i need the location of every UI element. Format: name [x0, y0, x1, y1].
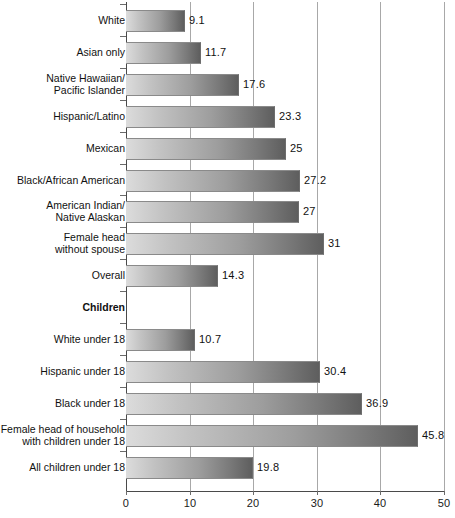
bar: [126, 201, 299, 223]
bar-value-label: 30.4: [324, 365, 346, 377]
y-tick-mark-0: [120, 4, 126, 5]
category-label: Black/African American: [0, 174, 125, 186]
category-label: Overall: [0, 269, 125, 281]
y-tick-mark-7: [120, 227, 126, 228]
x-axis-line: [126, 491, 444, 492]
y-tick-mark-14: [120, 451, 126, 452]
y-tick-mark-2: [120, 68, 126, 69]
bar-value-label: 11.7: [205, 46, 226, 58]
y-tick-mark-10: [120, 323, 126, 324]
category-label: All children under 18: [0, 461, 125, 473]
x-tick-mark-20: [253, 491, 254, 495]
gridline-50: [444, 2, 445, 491]
category-label: White under 18: [0, 333, 125, 345]
bar: [126, 265, 218, 287]
bar: [126, 233, 324, 255]
y-tick-mark-13: [120, 419, 126, 420]
y-tick-mark-11: [120, 355, 126, 356]
x-tick-label-40: 40: [365, 497, 395, 509]
bar-value-label: 17.6: [243, 78, 265, 90]
x-tick-mark-0: [126, 491, 127, 495]
category-label: Mexican: [0, 142, 125, 154]
bar-value-label: 14.3: [222, 269, 244, 281]
bar: [126, 170, 300, 192]
bar-value-label: 19.8: [257, 461, 279, 473]
x-tick-label-0: 0: [111, 497, 141, 509]
bar: [126, 74, 239, 96]
bar: [126, 425, 418, 447]
y-tick-mark-6: [120, 195, 126, 196]
x-tick-label-50: 50: [429, 497, 455, 509]
gridline-40: [380, 2, 381, 491]
x-tick-label-20: 20: [238, 497, 268, 509]
x-tick-label-30: 30: [302, 497, 332, 509]
bar: [126, 106, 275, 128]
bar-value-label: 23.3: [279, 110, 301, 122]
x-tick-label-10: 10: [175, 497, 205, 509]
bar-value-label: 10.7: [199, 333, 221, 345]
section-header-label: Children: [0, 301, 125, 313]
category-label: American Indian/ Native Alaskan: [0, 199, 125, 223]
category-label: Native Hawaiian/ Pacific Islander: [0, 72, 125, 96]
y-tick-mark-3: [120, 100, 126, 101]
category-label: Black under 18: [0, 397, 125, 409]
bar-value-label: 9.1: [189, 14, 205, 26]
bar-chart: 01020304050White9.1Asian only11.7Native …: [0, 0, 455, 518]
category-label: Female head without spouse: [0, 231, 125, 255]
x-tick-mark-30: [317, 491, 318, 495]
x-tick-mark-50: [444, 491, 445, 495]
y-tick-mark-9: [120, 291, 126, 292]
bar: [126, 10, 185, 32]
x-tick-mark-10: [190, 491, 191, 495]
y-tick-mark-12: [120, 387, 126, 388]
bar: [126, 138, 286, 160]
x-tick-mark-40: [380, 491, 381, 495]
y-tick-mark-1: [120, 36, 126, 37]
y-tick-mark-8: [120, 259, 126, 260]
bar-value-label: 45.8: [422, 429, 444, 441]
category-label: Female head of household with children u…: [0, 423, 125, 447]
plot-area: 01020304050White9.1Asian only11.7Native …: [0, 0, 455, 518]
bar-value-label: 36.9: [366, 397, 388, 409]
category-label: White: [0, 14, 125, 26]
category-label: Hispanic/Latino: [0, 110, 125, 122]
bar: [126, 42, 201, 64]
bar-value-label: 27.2: [304, 174, 326, 186]
bar: [126, 393, 362, 415]
y-tick-mark-5: [120, 164, 126, 165]
bar-value-label: 27: [303, 205, 316, 217]
y-tick-mark-4: [120, 132, 126, 133]
bar: [126, 457, 253, 479]
bar-value-label: 25: [290, 142, 303, 154]
bar: [126, 329, 195, 351]
bar-value-label: 31: [328, 237, 341, 249]
bar: [126, 361, 320, 383]
category-label: Asian only: [0, 46, 125, 58]
category-label: Hispanic under 18: [0, 365, 125, 377]
